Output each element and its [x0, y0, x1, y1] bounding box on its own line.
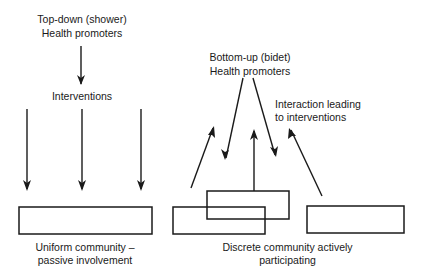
community-group-box-upper	[207, 191, 289, 219]
top-down-title: Top-down (shower)	[28, 13, 136, 26]
uniform-community-label-1: Uniform community –	[15, 241, 155, 254]
bottom-up-promoters-label: Health promoters	[196, 65, 304, 78]
community-group-box-lower	[173, 207, 265, 234]
bottom-up-title: Bottom-up (bidet)	[196, 51, 304, 64]
discrete-community-label-1: Discrete community actively	[205, 241, 370, 254]
arrow-up-right	[291, 130, 322, 196]
uniform-community-box	[19, 207, 152, 234]
arrow-promoters-down-left	[226, 78, 243, 158]
interventions-label: Interventions	[38, 90, 126, 103]
interaction-label-1: Interaction leading	[275, 98, 361, 111]
bottom-up-arrows	[191, 78, 322, 196]
diagram-canvas	[0, 0, 426, 278]
top-down-promoters-label: Health promoters	[28, 27, 136, 40]
arrow-up-left	[191, 128, 213, 188]
community-group-box-right	[307, 206, 404, 233]
uniform-community-label-2: passive involvement	[15, 254, 155, 267]
arrow-promoters-down-right	[253, 78, 275, 155]
interaction-label-2: to interventions	[275, 111, 346, 124]
discrete-community-label-2: participating	[205, 254, 370, 267]
top-down-arrows	[23, 46, 145, 191]
